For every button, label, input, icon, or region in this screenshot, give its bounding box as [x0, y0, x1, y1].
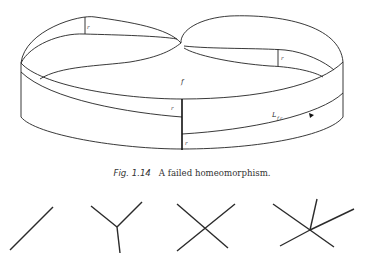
left-lobe-lower-curve [40, 43, 181, 79]
front-strip-upper [21, 72, 182, 117]
label-r-front-lower: r [185, 140, 188, 146]
caption-text: A failed homeomorphism. [159, 168, 271, 178]
band-diagram: r r f r r L f,r [0, 0, 384, 270]
graph-line [10, 207, 53, 250]
right-lobe-inner-rim-lower [184, 48, 323, 77]
front-strip-right-upper [182, 93, 343, 134]
right-lobe-inner-rim-upper [184, 46, 334, 70]
label-L-subscript: f,r [276, 116, 283, 121]
label-r-top-right: r [281, 55, 284, 61]
label-L: L [271, 111, 276, 119]
graph-cross [177, 204, 235, 251]
caption-label: Fig. 1.14 [113, 168, 150, 178]
graph-tripod [91, 202, 142, 253]
right-lobe-outer-rim [181, 16, 343, 62]
arrow-head-icon [309, 113, 314, 118]
label-r-front-upper: r [171, 105, 174, 111]
figure-caption: Fig. 1.14A failed homeomorphism. [0, 168, 384, 178]
left-lobe-inner-rim [21, 34, 177, 63]
label-f: f [180, 78, 185, 86]
label-r-top-left: r [87, 24, 90, 30]
graph-star-5 [273, 199, 354, 247]
